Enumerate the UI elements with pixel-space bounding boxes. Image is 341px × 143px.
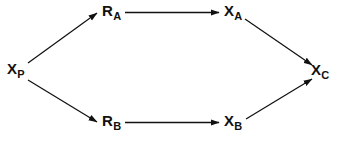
node-label-rb: RB [102, 113, 121, 132]
node-label-xp: XP [7, 61, 25, 80]
reaction-pathway-diagram: XP RA XA XC RB XB [0, 0, 341, 143]
node-xa-base: X [224, 2, 234, 19]
node-label-xa: XA [224, 3, 242, 22]
node-xc-base: X [311, 61, 321, 78]
node-xc-subscript: C [321, 69, 329, 81]
node-xp-subscript: P [17, 68, 24, 80]
node-label-xc: XC [311, 62, 329, 81]
node-rb-subscript: B [113, 120, 121, 132]
node-xb-subscript: B [234, 120, 242, 132]
edge-layer [0, 0, 341, 143]
node-xp-base: X [7, 60, 17, 77]
edge-xa-to-xc [245, 19, 312, 65]
node-label-xb: XB [224, 113, 242, 132]
edge-xb-to-xc [246, 79, 312, 119]
node-label-ra: RA [102, 3, 121, 22]
edge-xp-to-rb [28, 80, 97, 122]
edge-xp-to-ra [28, 13, 97, 63]
node-rb-base: R [102, 112, 113, 129]
node-ra-base: R [102, 2, 113, 19]
node-ra-subscript: A [113, 10, 121, 22]
node-xb-base: X [224, 112, 234, 129]
node-xa-subscript: A [234, 10, 242, 22]
